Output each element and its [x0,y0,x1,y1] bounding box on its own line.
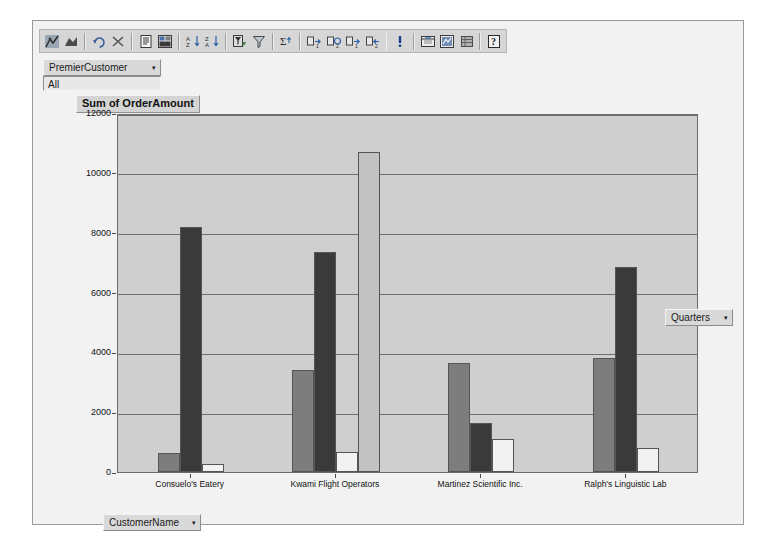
bar[interactable] [158,453,180,472]
page-field-filter: PremierCustomer ▾ All [43,59,161,91]
y-axis-tick [112,114,116,115]
svg-text:2: 2 [375,42,378,48]
category-field-label: CustomerName [109,516,179,529]
svg-text:A: A [205,42,209,48]
y-axis-tick-label: 6000 [91,289,111,298]
pivotchart-toolbar: AZZAΣ1212? [39,29,507,53]
show-details-icon[interactable]: 1 [305,32,323,51]
toolbar-separator [225,33,227,50]
x-axis-tick [190,474,191,478]
filter-icon[interactable] [250,32,268,51]
toolbar-separator [84,33,86,50]
bar[interactable] [637,448,659,472]
y-axis-tick [112,173,116,174]
delete-icon[interactable] [110,32,128,51]
bar-group [593,115,659,472]
y-axis-tick-label: 12000 [86,109,111,118]
toolbar-separator [413,33,415,50]
category-field-button-customername: CustomerName ▾ [103,514,201,531]
category-field-button[interactable]: CustomerName ▾ [103,514,201,531]
bar[interactable] [492,439,514,472]
bar-group [292,115,380,472]
bar-group [158,115,224,472]
page-field-value[interactable]: All [43,76,161,91]
undo-icon[interactable] [90,32,108,51]
x-axis-category-label: Martinez Scientific Inc. [408,479,553,489]
bar[interactable] [292,370,314,472]
bar[interactable] [470,423,492,472]
bar[interactable] [448,363,470,472]
toolbar-separator [178,33,180,50]
y-axis-tick [112,293,116,294]
field-settings-icon[interactable] [157,32,175,51]
pivottable-field-icon[interactable] [63,32,81,51]
export-excel-icon[interactable] [419,32,437,51]
x-axis-tick [480,474,481,478]
y-axis-tick-label: 10000 [86,169,111,178]
svg-text:1: 1 [355,42,358,48]
page-field-label: PremierCustomer [49,61,127,74]
sort-ascending-icon[interactable]: AZ [184,32,202,51]
y-axis-tick-label: 0 [106,468,111,477]
field-list-icon[interactable] [458,32,476,51]
svg-text:2: 2 [336,42,339,48]
y-axis: 020004000600080001000012000 [75,114,111,473]
bar[interactable] [180,227,202,472]
switch-view-icon[interactable] [438,32,456,51]
legend-field-button[interactable]: Quarters ▾ [665,309,733,326]
pivot-chart: 020004000600080001000012000 Consuelo's E… [75,94,699,504]
page-field-button-premiercustomer[interactable]: PremierCustomer ▾ [43,59,161,76]
autocalc-icon[interactable]: Σ [278,32,296,51]
y-axis-tick [112,353,116,354]
refresh-expand-icon[interactable]: 1 [344,32,362,51]
x-axis-category-label: Ralph's Linguistic Lab [553,479,698,489]
bar[interactable] [336,452,358,472]
legend-field-label: Quarters [671,311,710,324]
toolbar-separator [479,33,481,50]
toolbar-separator [299,33,301,50]
svg-text:1: 1 [316,42,319,48]
autofilter-icon[interactable] [231,32,249,51]
y-axis-tick-label: 4000 [91,348,111,357]
chevron-down-icon: ▾ [724,314,728,321]
hide-details-icon[interactable]: 2 [325,32,343,51]
y-axis-tick-label: 2000 [91,408,111,417]
properties-icon[interactable] [137,32,155,51]
x-axis-tick [625,474,626,478]
pivotchart-wizard-icon[interactable] [43,32,61,51]
toolbar-separator [272,33,274,50]
refresh-data-icon[interactable] [391,32,409,51]
x-axis-category-label: Kwami Flight Operators [262,479,407,489]
pivotchart-window: AZZAΣ1212? PremierCustomer ▾ All Sum of … [32,20,744,525]
toolbar-separator [386,33,388,50]
help-icon[interactable]: ? [485,32,503,51]
bar-group [448,115,514,472]
svg-text:?: ? [491,36,496,47]
y-axis-tick [112,473,116,474]
refresh-collapse-icon[interactable]: 2 [364,32,382,51]
x-axis-category-label: Consuelo's Eatery [117,479,262,489]
bar[interactable] [593,358,615,472]
bar[interactable] [314,252,336,472]
x-axis-tick [335,474,336,478]
svg-text:Z: Z [186,42,190,48]
chevron-down-icon: ▾ [192,519,196,526]
y-axis-tick [112,413,116,414]
y-axis-tick-label: 8000 [91,229,111,238]
bar[interactable] [615,267,637,472]
toolbar-separator [131,33,133,50]
legend-field-button-quarters: Quarters ▾ [665,309,733,326]
svg-text:Σ: Σ [280,35,286,47]
bar[interactable] [202,464,224,472]
y-axis-tick [112,233,116,234]
bar[interactable] [358,152,380,472]
plot-area [117,114,698,473]
chevron-down-icon: ▾ [152,64,156,71]
sort-descending-icon[interactable]: ZA [203,32,221,51]
